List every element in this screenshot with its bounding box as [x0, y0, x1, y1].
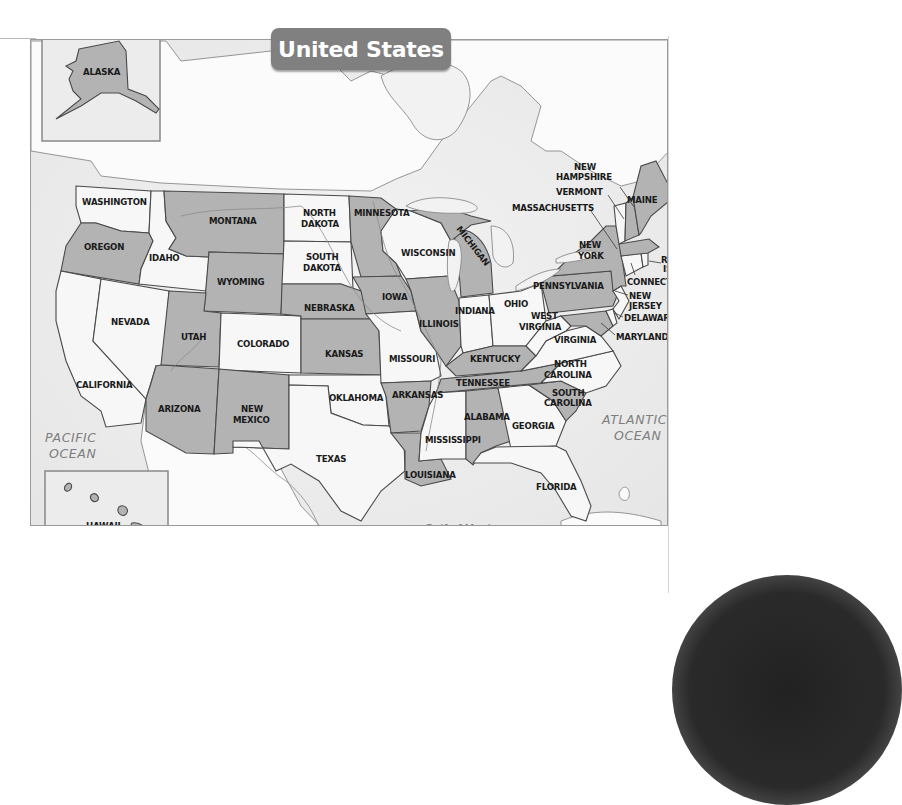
label-new-hampshire-1: NEW — [574, 162, 597, 172]
label-wisconsin: WISCONSIN — [401, 248, 455, 258]
page-divider — [668, 36, 669, 593]
label-minnesota: MINNESOTA — [354, 208, 410, 218]
label-south-carolina-1: SOUTH — [552, 388, 585, 398]
label-montana: MONTANA — [209, 216, 257, 226]
label-pacific-ocean-2: OCEAN — [49, 446, 96, 461]
label-new-york-2: YORK — [577, 251, 604, 261]
label-alabama: ALABAMA — [464, 412, 510, 422]
label-south-carolina-2: CAROLINA — [544, 398, 592, 408]
label-florida: FLORIDA — [536, 482, 577, 492]
label-illinois: ILLINOIS — [419, 319, 459, 329]
label-texas: TEXAS — [316, 454, 346, 464]
label-indiana: INDIANA — [455, 306, 495, 316]
label-atlantic-ocean-1: ATLANTIC — [601, 412, 667, 427]
label-delaware: DELAWARE — [624, 313, 668, 323]
label-kansas: KANSAS — [325, 349, 363, 359]
label-alaska: ALASKA — [83, 67, 121, 77]
label-pacific-ocean-1: PACIFIC — [45, 430, 97, 445]
label-new-mexico-2: MEXICO — [233, 415, 270, 425]
label-rhode-island-2: ISLAND — [663, 264, 668, 274]
state-north-dakota — [284, 194, 351, 242]
label-washington: WASHINGTON — [82, 197, 147, 207]
label-north-carolina-1: NORTH — [554, 359, 587, 369]
hawaii-inset-frame — [45, 471, 168, 526]
label-north-dakota-1: NORTH — [303, 208, 336, 218]
label-new-jersey-1: NEW — [629, 291, 652, 301]
corner-badge-graphic — [672, 575, 902, 805]
label-new-york-1: NEW — [579, 240, 602, 250]
label-hawaii: HAWAII — [86, 521, 120, 526]
hawaii-island-maui — [118, 506, 128, 515]
label-ohio: OHIO — [504, 299, 528, 309]
label-iowa: IOWA — [382, 292, 408, 302]
label-connecticut: CONNECTICUT — [627, 277, 668, 287]
label-atlantic-ocean-2: OCEAN — [614, 428, 661, 443]
label-arizona: ARIZONA — [158, 404, 201, 414]
label-south-dakota-2: DAKOTA — [303, 263, 342, 273]
label-south-dakota-1: SOUTH — [306, 252, 339, 262]
label-georgia: GEORGIA — [512, 421, 555, 431]
label-maine: MAINE — [627, 195, 658, 205]
label-nebraska: NEBRASKA — [304, 303, 355, 313]
label-virginia: VIRGINIA — [554, 335, 597, 345]
hawaii-island-oahu — [90, 494, 98, 502]
label-mississippi: MISSISSIPPI — [425, 435, 481, 445]
label-west-virginia-2: VIRGINIA — [519, 322, 562, 332]
label-nevada: NEVADA — [111, 317, 150, 327]
state-kansas — [301, 319, 381, 375]
label-utah: UTAH — [181, 332, 206, 342]
hawaii-inset: HAWAII — [45, 471, 168, 526]
label-wyoming: WYOMING — [217, 277, 264, 287]
state-indiana — [459, 295, 493, 353]
us-map: ALASKA HAWAII PACIFIC OCEAN ATLANTIC OCE… — [30, 39, 668, 526]
alaska-inset: ALASKA — [42, 40, 160, 141]
label-louisiana: LOUISIANA — [405, 470, 456, 480]
label-arkansas: ARKANSAS — [392, 390, 443, 400]
label-massachusetts: MASSACHUSETTS — [512, 203, 594, 213]
label-west-virginia-1: WEST — [531, 311, 558, 321]
label-pennsylvania: PENNSYLVANIA — [533, 281, 604, 291]
label-kentucky: KENTUCKY — [470, 354, 521, 364]
label-oregon: OREGON — [84, 242, 124, 252]
label-idaho: IDAHO — [149, 253, 179, 263]
label-new-jersey-2: JERSEY — [628, 301, 663, 311]
label-maryland: MARYLAND — [616, 332, 668, 342]
label-north-carolina-2: CAROLINA — [544, 370, 592, 380]
label-colorado: COLORADO — [237, 339, 289, 349]
label-new-mexico-1: NEW — [241, 404, 264, 414]
map-canvas: ALASKA HAWAII PACIFIC OCEAN ATLANTIC OCE… — [31, 40, 668, 526]
label-north-dakota-2: DAKOTA — [301, 219, 340, 229]
label-vermont: VERMONT — [556, 187, 603, 197]
label-oklahoma: OKLAHOMA — [329, 393, 384, 403]
label-california: CALIFORNIA — [76, 380, 133, 390]
label-tennessee: TENNESSEE — [456, 378, 510, 388]
state-pennsylvania — [541, 271, 619, 313]
label-missouri: MISSOURI — [389, 354, 435, 364]
label-new-hampshire-2: HAMPSHIRE — [556, 172, 612, 182]
map-title: United States — [271, 28, 451, 70]
label-gulf-of-mexico: Gulf of Mexico — [424, 522, 503, 526]
